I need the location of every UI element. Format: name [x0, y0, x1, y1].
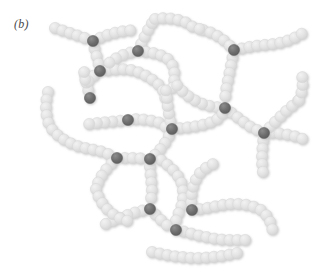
chain-bead — [267, 224, 278, 235]
chain-bead — [296, 28, 307, 39]
chain-bead — [172, 80, 183, 91]
chain-bead — [231, 247, 242, 258]
chain-bead — [194, 23, 205, 34]
crosslink-bead — [170, 224, 181, 235]
chain-bead — [84, 118, 95, 129]
crosslink-bead — [166, 123, 177, 134]
chain-bead — [160, 85, 171, 96]
crosslink-bead — [111, 152, 122, 163]
crosslink-bead — [144, 203, 155, 214]
crosslink-bead — [258, 127, 269, 138]
crosslink-bead — [94, 65, 105, 76]
chain-bead — [146, 192, 157, 203]
chain-bead — [125, 25, 136, 36]
chain-bead — [240, 234, 251, 245]
chain-bead — [122, 215, 133, 226]
chain-bead — [297, 72, 308, 83]
crosslink-bead — [219, 102, 230, 113]
chain-bead — [79, 67, 90, 78]
crosslink-bead — [228, 44, 239, 55]
chain-bead — [297, 133, 308, 144]
polymer-network-diagram — [0, 0, 319, 274]
chain-bead — [207, 159, 218, 170]
crosslink-bead — [87, 35, 98, 46]
crosslink-bead — [186, 204, 197, 215]
chain-bead — [104, 57, 115, 68]
crosslink-bead — [144, 153, 155, 164]
chain-bead — [257, 166, 268, 177]
chain-bead — [100, 218, 111, 229]
chain-bead — [220, 90, 231, 101]
crosslink-bead — [132, 45, 143, 56]
crosslink-bead — [84, 92, 95, 103]
crosslink-bead — [122, 114, 133, 125]
figure-panel: (b) — [0, 0, 319, 274]
